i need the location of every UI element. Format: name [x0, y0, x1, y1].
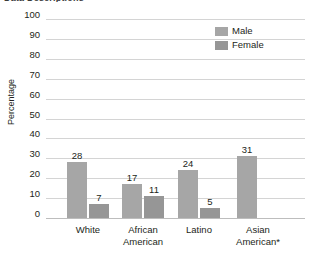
- bar-value-label: 24: [174, 159, 202, 169]
- bar-value-label: 31: [233, 145, 261, 155]
- legend-item-female: Female: [215, 38, 307, 52]
- y-axis-tick-label: 40: [4, 129, 40, 139]
- y-axis-tick-label: 20: [4, 169, 40, 179]
- bar: [67, 162, 87, 218]
- bar: [122, 184, 142, 218]
- bar-chart: Data Descriptions Percentage 10090807060…: [0, 0, 310, 257]
- x-axis-labels: WhiteAfrican AmericanLatinoAsian America…: [46, 224, 305, 257]
- legend-label-female: Female: [232, 40, 264, 50]
- bar-group: 1711: [122, 19, 164, 218]
- bar-value-label: 28: [63, 151, 91, 161]
- y-axis-tick-label: 60: [4, 90, 40, 100]
- bar: [144, 196, 164, 218]
- y-axis-tick-label: 100: [4, 10, 40, 20]
- y-axis-tick-label: 0: [4, 209, 40, 219]
- chart-legend: Male Female: [215, 24, 307, 52]
- chart-title-clipped: Data Descriptions: [4, 0, 154, 2]
- x-axis-category-label: Asian American*: [222, 224, 294, 247]
- bar-value-label: 5: [196, 197, 224, 207]
- legend-swatch-female: [215, 41, 228, 50]
- bar-value-label: 7: [85, 193, 113, 203]
- y-axis-tick-label: 30: [4, 149, 40, 159]
- legend-item-male: Male: [215, 24, 307, 38]
- bar: [200, 208, 220, 218]
- y-axis-tick-label: 50: [4, 110, 40, 120]
- y-axis-tick-label: 70: [4, 70, 40, 80]
- bar-value-label: 11: [140, 185, 168, 195]
- y-axis-tick-label: 80: [4, 50, 40, 60]
- bar: [237, 156, 257, 218]
- bar: [178, 170, 198, 218]
- axis-baseline: [46, 218, 305, 219]
- bar-value-label: 17: [118, 173, 146, 183]
- bar-group: 245: [178, 19, 220, 218]
- y-axis-tick-label: 10: [4, 189, 40, 199]
- bar: [89, 204, 109, 218]
- legend-swatch-male: [215, 27, 228, 36]
- legend-label-male: Male: [232, 26, 253, 36]
- y-axis-tick-label: 90: [4, 30, 40, 40]
- bar-group: 287: [67, 19, 109, 218]
